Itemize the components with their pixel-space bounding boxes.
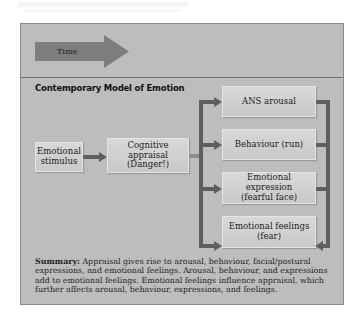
figure-title: Contemporary Model of Emotion	[35, 83, 184, 93]
node-label: (fear)	[257, 232, 281, 242]
summary-label: Summary:	[35, 257, 80, 266]
time-label: Time	[57, 47, 77, 56]
faded-header-text	[25, 9, 180, 12]
node-label: Cognitive appraisal	[108, 141, 188, 161]
connector-trunk	[199, 100, 203, 248]
faded-header-text	[18, 2, 188, 7]
node-cognitive-appraisal: Cognitive appraisal (Danger!)	[107, 138, 189, 173]
node-emotional-expression: Emotional expression (fearful face)	[222, 172, 316, 204]
divider	[21, 77, 343, 78]
node-behaviour: Behaviour (run)	[222, 129, 316, 160]
node-label: (fearful face)	[241, 193, 297, 203]
node-ans-arousal: ANS arousal	[222, 86, 316, 117]
node-label: ANS arousal	[242, 97, 296, 107]
arrowhead-icon	[214, 140, 222, 150]
node-label: Behaviour (run)	[235, 140, 303, 150]
arrowhead-left-icon	[315, 241, 323, 251]
emotion-model-figure: Time Contemporary Model of Emotion Emoti…	[20, 23, 344, 305]
arrowhead-icon	[214, 97, 222, 107]
node-emotional-feelings: Emotional feelings (fear)	[222, 216, 316, 248]
node-label: Emotional expression	[223, 173, 315, 193]
arrowhead-icon	[214, 184, 222, 194]
node-emotional-stimulus: Emotional stimulus	[35, 142, 83, 172]
time-arrow-icon	[35, 35, 129, 68]
node-label: stimulus	[41, 157, 78, 167]
feedback-trunk	[326, 100, 330, 248]
arrowhead-icon	[214, 241, 222, 251]
node-label: (Danger!)	[127, 160, 169, 170]
summary-text: Summary: Appraisal gives rise to arousal…	[35, 257, 335, 295]
arrowhead-icon	[99, 152, 107, 162]
